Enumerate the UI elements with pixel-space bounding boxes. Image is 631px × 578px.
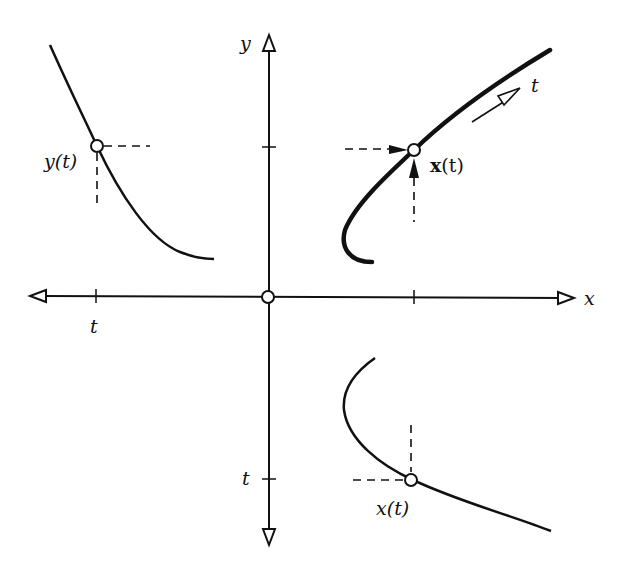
x-axis-label: x <box>584 287 595 309</box>
label-y-of-t: y(t) <box>43 150 77 172</box>
y-axis-down-arrow-icon <box>263 529 275 545</box>
x-axis <box>30 289 574 304</box>
y-axis-tick-label: t <box>242 467 250 489</box>
y-axis-label: y <box>239 32 251 54</box>
vertical-projection-arrow-icon <box>409 158 419 178</box>
diagram-canvas: y x t t y(t) x(t) t x(t) <box>0 0 631 578</box>
horizontal-projection-arrow-icon <box>389 145 408 154</box>
x-axis-right-arrow-icon <box>558 292 574 304</box>
point-y-of-t <box>91 140 103 152</box>
point-x-of-t <box>408 144 420 156</box>
y-axis-up-arrow-icon <box>263 35 275 51</box>
y-axis <box>262 35 276 545</box>
label-x-of-t: x(t) <box>376 497 409 519</box>
curve-x-of-t: x(t) t <box>344 50 550 262</box>
graph-y-of-t: y(t) <box>43 45 214 259</box>
label-bold-x-of-t: x(t) <box>430 154 464 176</box>
direction-label-t: t <box>531 74 539 96</box>
x-axis-left-arrow-icon <box>30 290 46 302</box>
origin-marker <box>262 291 274 303</box>
point-x-of-t-graph <box>405 474 417 486</box>
graph-x-of-t: x(t) <box>344 358 551 531</box>
x-axis-tick-label: t <box>90 315 98 337</box>
